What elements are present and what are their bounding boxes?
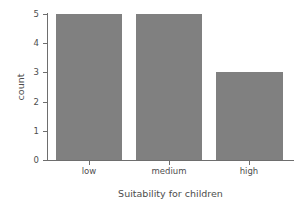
y-axis-line xyxy=(47,13,48,161)
y-tick-mark-0 xyxy=(43,160,47,161)
x-tick-mark-low xyxy=(89,161,90,165)
y-tick-mark-2 xyxy=(43,102,47,103)
y-tick-mark-1 xyxy=(43,131,47,132)
x-axis-title: Suitability for children xyxy=(47,189,294,199)
x-tick-mark-high xyxy=(249,161,250,165)
y-tick-mark-5 xyxy=(43,14,47,15)
x-tick-mark-medium xyxy=(169,161,170,165)
x-tick-label-low: low xyxy=(49,167,129,176)
x-tick-label-high: high xyxy=(209,167,289,176)
x-axis-line xyxy=(47,160,294,161)
x-tick-label-medium: medium xyxy=(129,167,209,176)
plot-area xyxy=(47,14,293,160)
y-tick-mark-3 xyxy=(43,72,47,73)
bar-high xyxy=(216,72,283,160)
y-tick-mark-4 xyxy=(43,43,47,44)
bar-chart: 0 1 2 3 4 5 low medium high count Suitab… xyxy=(0,0,301,212)
y-axis-title: count xyxy=(14,14,28,160)
bar-low xyxy=(56,14,122,160)
bar-medium xyxy=(136,14,202,160)
